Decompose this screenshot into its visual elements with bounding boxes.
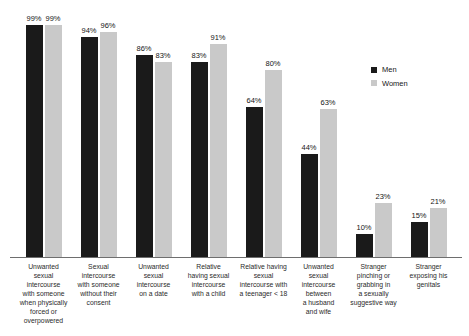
bar-value-label: 80% [265,59,280,68]
bar-value-label: 96% [100,21,115,30]
bar-value-label: 94% [81,26,96,35]
bar-column-women: 96% [100,21,117,257]
men-swatch-icon [371,67,377,73]
bar-men [356,234,373,257]
x-axis-line [10,257,462,258]
bar-column-men: 94% [81,26,98,257]
bar-men [191,62,208,257]
bar-column-men: 10% [356,223,373,257]
bar-group: 86%83% [126,44,181,257]
bar-column-men: 64% [246,96,263,257]
bar-men [246,107,263,257]
bar-group: 83%91% [181,33,236,257]
bar-column-men: 15% [411,211,428,257]
bar-group: 94%96% [71,21,126,257]
bar-value-label: 63% [320,98,335,107]
bar-value-label: 23% [375,192,390,201]
bar-men [411,222,428,257]
category-label: Stranger exposing his genitals [401,263,456,326]
bar-column-men: 44% [301,143,318,257]
bar-group: 99%99% [16,14,71,257]
bar-group: 15%21% [401,197,456,257]
bar-men [26,25,43,257]
plot-area: 99%99%94%96%86%83%83%91%64%80%44%63%10%2… [16,0,456,257]
category-label: Unwanted sexual intercourse on a date [126,263,181,326]
bar-column-men: 86% [136,44,153,257]
bar-men [301,154,318,257]
women-swatch-icon [371,80,377,86]
bar-column-women: 99% [45,14,62,257]
bar-group: 44%63% [291,98,346,257]
bar-column-women: 83% [155,51,172,257]
bar-column-women: 80% [265,59,282,257]
bar-column-women: 23% [375,192,392,257]
bar-women [155,62,172,257]
legend: Men Women [371,66,408,93]
bar-column-women: 63% [320,98,337,257]
x-axis-labels: Unwanted sexual intercourse with someone… [16,263,456,326]
bar-women [265,70,282,257]
bar-column-women: 21% [430,197,447,257]
category-label: Relative having sexual intercourse with … [236,263,291,326]
bar-chart: 99%99%94%96%86%83%83%91%64%80%44%63%10%2… [0,0,469,336]
bar-value-label: 91% [210,33,225,42]
bar-women [45,25,62,257]
bar-men [81,37,98,257]
legend-label-men: Men [382,66,397,74]
bar-value-label: 44% [301,143,316,152]
bar-value-label: 21% [430,197,445,206]
bar-women [210,44,227,257]
category-label: Relative having sexual intercourse with … [181,263,236,326]
bar-value-label: 64% [246,96,261,105]
legend-item-men: Men [371,66,408,74]
bar-women [430,208,447,257]
bar-column-men: 83% [191,51,208,257]
bar-women [100,32,117,257]
bar-value-label: 83% [191,51,206,60]
bar-value-label: 99% [45,14,60,23]
bar-value-label: 10% [356,223,371,232]
category-label: Stranger pinching or grabbing in a sexua… [346,263,401,326]
legend-label-women: Women [382,80,408,88]
category-label: Unwanted sexual intercourse with someone… [16,263,71,326]
bar-women [320,109,337,257]
bar-value-label: 99% [26,14,41,23]
bar-value-label: 83% [155,51,170,60]
category-label: Sexual intercourse with someone without … [71,263,126,326]
bar-value-label: 15% [411,211,426,220]
legend-item-women: Women [371,80,408,88]
bar-column-women: 91% [210,33,227,257]
category-label: Unwanted sexual intercourse between a hu… [291,263,346,326]
bar-women [375,203,392,257]
bar-group: 10%23% [346,192,401,257]
bar-column-men: 99% [26,14,43,257]
bar-value-label: 86% [136,44,151,53]
bar-men [136,55,153,257]
bar-group: 64%80% [236,59,291,257]
